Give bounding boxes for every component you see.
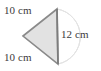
label-lower-left-side: 10 cm xyxy=(4,52,32,63)
label-upper-left-side: 10 cm xyxy=(4,5,32,16)
geometry-figure: 10 cm 10 cm 12 cm xyxy=(0,0,101,71)
triangle-side-right xyxy=(57,9,58,64)
label-right-side: 12 cm xyxy=(61,29,89,40)
